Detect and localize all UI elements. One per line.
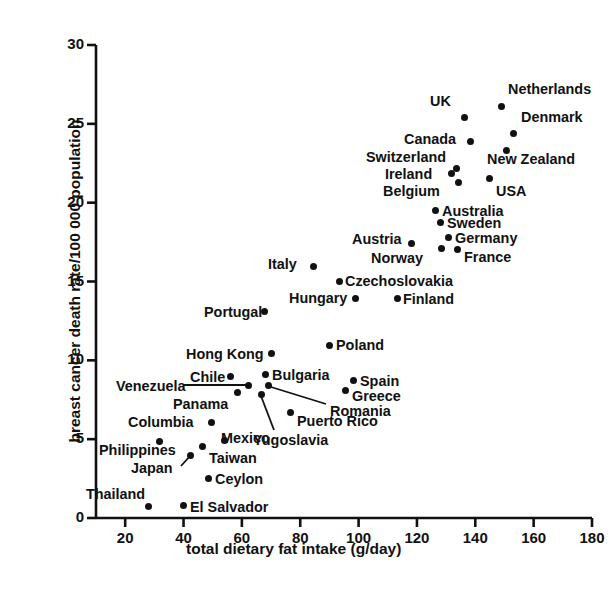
data-point-belgium[interactable] [455, 179, 462, 186]
point-label-norway: Norway [371, 251, 423, 265]
data-point-poland[interactable] [326, 342, 333, 349]
point-label-greece: Greece [352, 389, 401, 403]
point-label-switzerland: Switzerland [366, 150, 446, 164]
data-point-norway[interactable] [438, 245, 445, 252]
point-label-ireland: Ireland [385, 167, 432, 181]
y-tick-label-0: 0 [40, 508, 84, 525]
point-label-philippines: Philippines [99, 443, 176, 457]
point-label-venezuela: Venezuela [116, 379, 186, 393]
data-point-venezuela[interactable] [245, 382, 252, 389]
data-point-japan[interactable] [187, 452, 194, 459]
point-label-mexico: Mexico [221, 431, 270, 445]
point-label-portugal: Portugal [204, 305, 262, 319]
y-axis-title: breast cancer death rate/100 000 populat… [66, 66, 84, 496]
data-point-uk[interactable] [461, 114, 468, 121]
point-label-spain: Spain [360, 374, 399, 388]
point-label-germany: Germany [455, 231, 517, 245]
data-point-thailand[interactable] [145, 503, 152, 510]
data-point-spain[interactable] [350, 377, 357, 384]
point-label-netherlands: Netherlands [508, 82, 591, 96]
point-label-uk: UK [430, 94, 451, 108]
data-point-romania[interactable] [265, 382, 272, 389]
x-tick-label-140: 140 [453, 529, 497, 546]
point-label-canada: Canada [404, 132, 456, 146]
point-label-denmark: Denmark [521, 110, 583, 124]
data-point-ireland[interactable] [448, 170, 455, 177]
point-label-hungary: Hungary [289, 291, 347, 305]
point-label-usa: USA [496, 184, 526, 198]
data-point-sweden[interactable] [437, 219, 444, 226]
point-label-finland: Finland [403, 292, 454, 306]
data-point-italy[interactable] [310, 263, 317, 270]
data-point-hong-kong[interactable] [268, 350, 275, 357]
point-label-france: France [464, 250, 511, 264]
data-point-puerto-rico[interactable] [287, 409, 294, 416]
point-label-austria: Austria [352, 232, 402, 246]
data-point-denmark[interactable] [510, 130, 517, 137]
data-point-germany[interactable] [445, 234, 452, 241]
data-point-yugoslavia[interactable] [258, 391, 265, 398]
point-label-ceylon: Ceylon [215, 472, 263, 486]
data-point-austria[interactable] [408, 240, 415, 247]
point-label-bulgaria: Bulgaria [272, 368, 330, 382]
x-axis-title: total dietary fat intake (g/day) [186, 540, 401, 558]
point-label-new-zealand: New Zealand [487, 152, 575, 166]
x-tick-label-180: 180 [570, 529, 614, 546]
data-point-ceylon[interactable] [205, 475, 212, 482]
data-point-el-salvador[interactable] [180, 502, 187, 509]
data-point-panama[interactable] [234, 389, 241, 396]
data-point-columbia[interactable] [208, 419, 215, 426]
point-label-sweden: Sweden [447, 216, 501, 230]
point-label-hong-kong: Hong Kong [186, 347, 264, 361]
data-point-taiwan[interactable] [199, 443, 206, 450]
point-label-thailand: Thailand [86, 487, 145, 501]
data-point-usa[interactable] [486, 175, 493, 182]
point-label-columbia: Columbia [128, 415, 194, 429]
point-label-puerto-rico: Puerto Rico [297, 414, 378, 428]
point-label-chile: Chile [190, 370, 225, 384]
data-point-canada[interactable] [467, 138, 474, 145]
y-tick-label-30: 30 [40, 35, 84, 52]
x-tick-label-120: 120 [395, 529, 439, 546]
data-point-bulgaria[interactable] [262, 371, 269, 378]
point-label-italy: Italy [268, 257, 297, 271]
point-label-el-salvador: El Salvador [190, 500, 268, 514]
point-label-japan: Japan [131, 461, 173, 475]
x-tick-label-20: 20 [103, 529, 147, 546]
point-label-panama: Panama [173, 397, 228, 411]
point-label-belgium: Belgium [383, 184, 440, 198]
point-label-poland: Poland [336, 338, 384, 352]
data-point-finland[interactable] [394, 295, 401, 302]
point-label-taiwan: Taiwan [209, 451, 257, 465]
data-point-chile[interactable] [227, 373, 234, 380]
data-point-hungary[interactable] [352, 295, 359, 302]
y-tick-marks [87, 45, 96, 518]
point-label-czechoslovakia: Czechoslovakia [345, 274, 453, 288]
data-point-australia[interactable] [432, 207, 439, 214]
x-tick-marks [125, 518, 592, 527]
x-tick-label-160: 160 [512, 529, 556, 546]
data-point-netherlands[interactable] [498, 103, 505, 110]
data-point-greece[interactable] [342, 387, 349, 394]
data-point-france[interactable] [454, 246, 461, 253]
data-point-czechoslovakia[interactable] [336, 278, 343, 285]
